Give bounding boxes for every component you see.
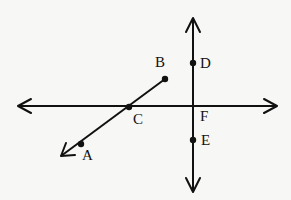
point-e [190,137,196,143]
ray-ba [61,79,165,156]
label-e: E [201,132,210,148]
point-d [190,60,196,66]
label-a: A [82,147,93,163]
geometry-diagram: A B C D E F [0,0,291,200]
label-d: D [200,55,211,71]
label-f: F [200,108,208,124]
label-b: B [155,54,165,70]
horizontal-line [18,99,277,113]
point-b [162,76,168,82]
label-c: C [133,111,143,127]
point-c [126,104,132,110]
